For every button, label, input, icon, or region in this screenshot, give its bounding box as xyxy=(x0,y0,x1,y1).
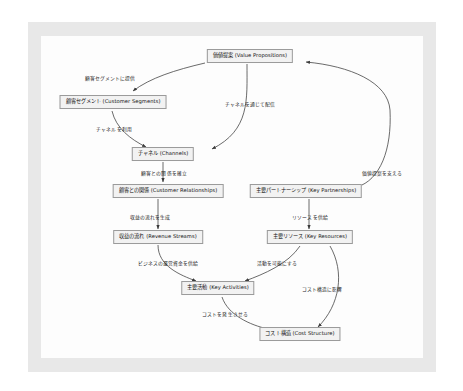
node-cost-structure[interactable]: コスト構造 (Cost Structure) xyxy=(259,327,340,341)
node-key-activities[interactable]: 主要活動 (Key Activities) xyxy=(181,281,254,295)
diagram-root: 価値提案 (Value Propositions) 顧客セグメント (Custo… xyxy=(0,0,463,391)
node-customer-segments[interactable]: 顧客セグメント (Customer Segments) xyxy=(60,95,167,109)
edge-label-kr-to-cost: コスト構造に影響 xyxy=(302,285,342,292)
node-channels[interactable]: チャネル (Channels) xyxy=(132,147,194,161)
edge-label-kr-to-ka: 活動を可能にする xyxy=(257,259,297,266)
edge-vp-to-ch xyxy=(212,64,247,149)
edge-label-ch-to-cr: 顧客との関係を確立 xyxy=(141,169,186,176)
node-customer-relationships[interactable]: 顧客との関係 (Customer Relationships) xyxy=(113,184,224,198)
node-value-propositions[interactable]: 価値提案 (Value Propositions) xyxy=(207,49,293,63)
edge-label-vp-to-cs: 顧客セグメントに提供 xyxy=(85,74,136,81)
edge-label-cr-to-rs: 収益の流れを生成 xyxy=(130,213,170,220)
node-key-resources[interactable]: 主要リソース (Key Resources) xyxy=(267,230,353,244)
edge-label-vp-to-ch: チャネルを通じて配信 xyxy=(225,100,276,107)
edge-label-rs-to-ka: ビジネスの運営資金を供給 xyxy=(138,259,199,266)
edge-vp-to-cs xyxy=(133,63,205,91)
edge-label-kp-to-vp: 価値提案を支える xyxy=(362,169,402,176)
edge-label-cs-to-ch: チャネルを利用 xyxy=(96,125,131,132)
node-revenue-streams[interactable]: 収益の流れ (Revenue Streams) xyxy=(113,230,203,244)
edge-label-ka-to-cost: コストを発生させる xyxy=(202,310,247,317)
node-key-partnerships[interactable]: 主要パートナーシップ (Key Partnerships) xyxy=(250,184,362,198)
edge-label-kp-to-kr: リソースを供給 xyxy=(292,213,327,220)
